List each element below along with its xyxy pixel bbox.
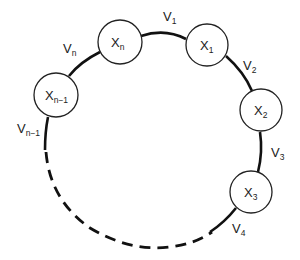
node-x3: X3 <box>230 171 272 213</box>
label-vn-1: Vn−1 <box>17 121 40 138</box>
label-vn: Vn <box>63 41 77 58</box>
ring-diagram: Xn X1 X2 X3 Xn−1 V1 V2 V3 V4 Vn Vn−1 <box>0 0 300 260</box>
node-xn: Xn <box>98 20 142 64</box>
edge-v3 <box>258 132 261 172</box>
edge-dashed-continuation <box>46 152 212 248</box>
node-x1: X1 <box>186 24 228 66</box>
node-xn-1: Xn−1 <box>34 73 78 117</box>
label-v4: V4 <box>232 221 246 238</box>
label-v1: V1 <box>163 9 177 26</box>
edge-vn1-solid <box>45 117 48 150</box>
edge-v1 <box>141 33 186 39</box>
node-x2: X2 <box>240 89 282 131</box>
label-v3: V3 <box>271 145 285 162</box>
label-v2: V2 <box>243 58 257 75</box>
